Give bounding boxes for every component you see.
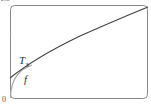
legend-label-f: f — [24, 74, 27, 85]
legend-label-f-text: f — [24, 73, 27, 85]
plot-frame — [11, 6, 148, 99]
y-tick-label-top: 1.5 — [0, 0, 10, 3]
legend-label-t3-sub: 3 — [25, 61, 29, 69]
y-tick-label-zero: 0 — [2, 96, 6, 104]
legend-label-t3: T3 — [19, 55, 29, 69]
series-t3-curve — [10, 7, 148, 78]
chart-canvas — [0, 0, 151, 106]
